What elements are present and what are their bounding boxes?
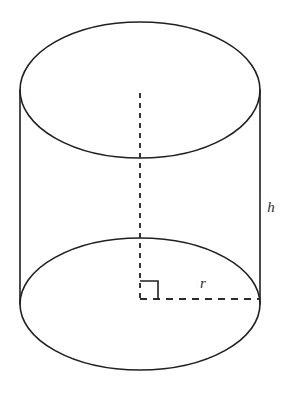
cylinder-figure: h r <box>0 0 289 396</box>
cylinder-diagram-canvas: h r <box>0 0 289 396</box>
height-label: h <box>267 199 275 215</box>
radius-label: r <box>200 275 206 291</box>
diagram-background <box>0 0 289 396</box>
